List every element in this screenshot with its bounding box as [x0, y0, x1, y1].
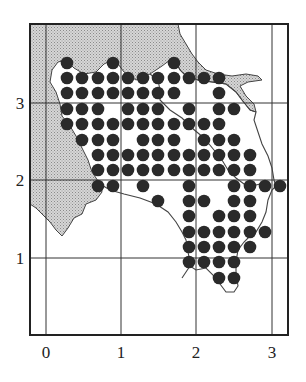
- occurrence-dot: [76, 103, 89, 116]
- occurrence-dot: [213, 164, 226, 177]
- occurrence-dot: [198, 164, 211, 177]
- y-tick-label: 1: [16, 249, 25, 268]
- distribution-map: 0123 321: [0, 0, 306, 382]
- occurrence-dot: [137, 149, 150, 162]
- occurrence-dot: [244, 195, 257, 208]
- y-tick-label: 2: [16, 171, 25, 190]
- occurrence-dot: [244, 164, 257, 177]
- occurrence-dot: [76, 134, 89, 147]
- occurrence-dot: [228, 103, 241, 116]
- occurrence-dot: [213, 103, 226, 116]
- occurrence-dot: [213, 72, 226, 85]
- occurrence-dot: [107, 57, 120, 70]
- occurrence-dot: [61, 118, 74, 131]
- occurrence-dot: [107, 118, 120, 131]
- occurrence-dot: [259, 180, 272, 193]
- occurrence-dot: [244, 241, 257, 254]
- occurrence-dots: [61, 57, 287, 285]
- occurrence-dot: [183, 210, 196, 223]
- occurrence-dot: [228, 164, 241, 177]
- occurrence-dot: [183, 256, 196, 269]
- x-axis-labels: 0123: [42, 343, 277, 362]
- occurrence-dot: [213, 149, 226, 162]
- occurrence-dot: [198, 149, 211, 162]
- occurrence-dot: [244, 180, 257, 193]
- occurrence-dot: [213, 134, 226, 147]
- occurrence-dot: [183, 72, 196, 85]
- occurrence-dot: [61, 103, 74, 116]
- occurrence-dot: [198, 256, 211, 269]
- occurrence-dot: [183, 241, 196, 254]
- occurrence-dot: [198, 118, 211, 131]
- occurrence-dot: [92, 118, 105, 131]
- occurrence-dot: [213, 256, 226, 269]
- occurrence-dot: [92, 72, 105, 85]
- y-axis-labels: 321: [16, 94, 25, 268]
- occurrence-dot: [107, 164, 120, 177]
- occurrence-dot: [183, 149, 196, 162]
- occurrence-dot: [92, 180, 105, 193]
- occurrence-dot: [168, 57, 181, 70]
- x-tick-label: 2: [192, 343, 201, 362]
- occurrence-dot: [122, 149, 135, 162]
- occurrence-dot: [213, 226, 226, 239]
- occurrence-dot: [228, 210, 241, 223]
- occurrence-dot: [107, 149, 120, 162]
- occurrence-dot: [152, 72, 165, 85]
- occurrence-dot: [198, 72, 211, 85]
- occurrence-dot: [107, 87, 120, 100]
- occurrence-dot: [198, 195, 211, 208]
- occurrence-dot: [168, 149, 181, 162]
- occurrence-dot: [122, 164, 135, 177]
- occurrence-dot: [228, 241, 241, 254]
- occurrence-dot: [168, 118, 181, 131]
- occurrence-dot: [137, 103, 150, 116]
- x-tick-label: 1: [117, 343, 126, 362]
- occurrence-dot: [213, 210, 226, 223]
- occurrence-dot: [92, 87, 105, 100]
- occurrence-dot: [122, 118, 135, 131]
- occurrence-dot: [274, 180, 287, 193]
- occurrence-dot: [183, 118, 196, 131]
- occurrence-dot: [244, 210, 257, 223]
- occurrence-dot: [137, 87, 150, 100]
- occurrence-dot: [228, 134, 241, 147]
- occurrence-dot: [259, 226, 272, 239]
- occurrence-dot: [228, 256, 241, 269]
- occurrence-dot: [228, 149, 241, 162]
- occurrence-dot: [61, 57, 74, 70]
- occurrence-dot: [92, 103, 105, 116]
- occurrence-dot: [137, 134, 150, 147]
- occurrence-dot: [76, 87, 89, 100]
- occurrence-dot: [213, 87, 226, 100]
- occurrence-dot: [228, 195, 241, 208]
- occurrence-dot: [122, 103, 135, 116]
- occurrence-dot: [213, 272, 226, 285]
- occurrence-dot: [76, 118, 89, 131]
- occurrence-dot: [168, 164, 181, 177]
- occurrence-dot: [198, 241, 211, 254]
- y-tick-label: 3: [16, 94, 25, 113]
- occurrence-dot: [244, 149, 257, 162]
- occurrence-dot: [198, 134, 211, 147]
- occurrence-dot: [213, 118, 226, 131]
- gridlines: [30, 24, 288, 335]
- occurrence-dot: [168, 87, 181, 100]
- occurrence-dot: [213, 241, 226, 254]
- occurrence-dot: [228, 180, 241, 193]
- occurrence-dot: [228, 272, 241, 285]
- occurrence-dot: [183, 226, 196, 239]
- occurrence-dot: [61, 87, 74, 100]
- occurrence-dot: [107, 134, 120, 147]
- occurrence-dot: [137, 118, 150, 131]
- occurrence-dot: [152, 195, 165, 208]
- occurrence-dot: [122, 87, 135, 100]
- occurrence-dot: [152, 164, 165, 177]
- occurrence-dot: [107, 72, 120, 85]
- occurrence-dot: [92, 149, 105, 162]
- occurrence-dot: [152, 134, 165, 147]
- occurrence-dot: [198, 226, 211, 239]
- occurrence-dot: [92, 164, 105, 177]
- occurrence-dot: [152, 149, 165, 162]
- occurrence-dot: [183, 180, 196, 193]
